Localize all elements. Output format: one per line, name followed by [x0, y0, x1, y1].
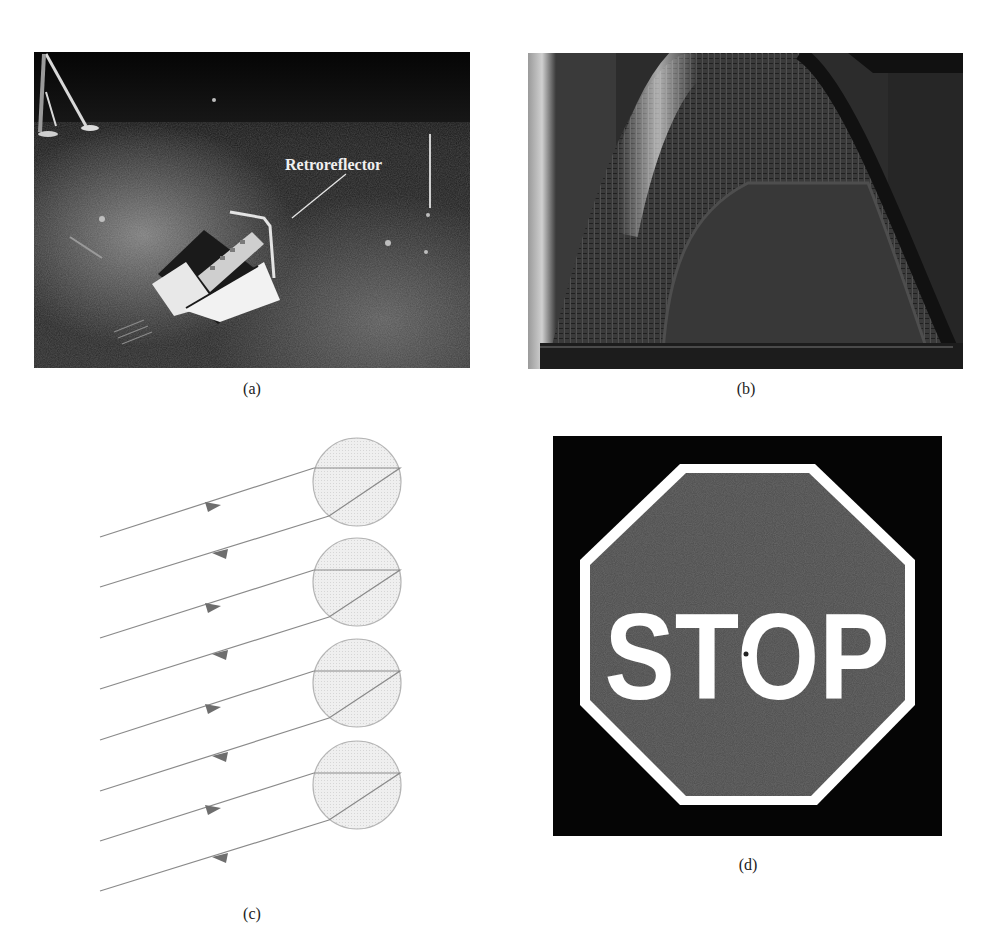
- car-pillar: [528, 53, 556, 369]
- arrow-left-icon: [212, 752, 228, 762]
- caption-c: (c): [222, 905, 282, 923]
- arrow-right-icon: [205, 502, 221, 512]
- retroreflector-label: Retroreflector: [285, 156, 382, 173]
- panel-b-taillight-photo: [528, 53, 963, 369]
- panel-c-sphere-diagram: [90, 430, 420, 900]
- arrow-right-icon: [205, 603, 221, 613]
- sphere-ray-diagram: [90, 430, 420, 900]
- arrow-right-icon: [205, 704, 221, 714]
- panel-a-lunar-photo: Retroreflector: [34, 52, 470, 368]
- stop-text: STOP: [605, 587, 890, 725]
- taillight-lens-image: [528, 53, 963, 369]
- arrow-left-icon: [212, 549, 228, 559]
- sphere-4: [100, 741, 401, 891]
- caption-b: (b): [716, 380, 776, 398]
- lunar-retroreflector-image: Retroreflector: [34, 52, 470, 368]
- arrow-left-icon: [212, 853, 228, 863]
- panel-d-stop-sign: STOP: [553, 436, 942, 836]
- caption-d: (d): [718, 856, 778, 874]
- caption-a: (a): [222, 380, 282, 398]
- stop-sign-image: STOP: [553, 436, 942, 836]
- arrow-right-icon: [205, 805, 221, 815]
